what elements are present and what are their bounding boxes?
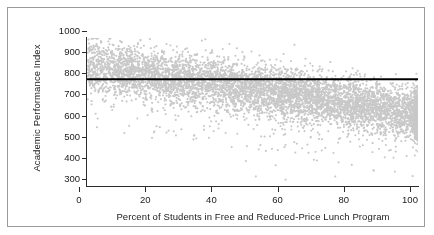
y-tick-label-text: 800 xyxy=(40,68,80,78)
y-tick-mark xyxy=(82,52,87,53)
x-tick-label-text: 20 xyxy=(125,194,165,205)
x-tick-label-text: 40 xyxy=(191,194,231,205)
x-tick-label: 100 xyxy=(390,194,430,205)
y-tick-mark xyxy=(82,179,87,180)
x-tick-label: 0 xyxy=(59,194,99,205)
x-axis-line xyxy=(86,186,419,187)
x-tick-mark xyxy=(211,187,212,192)
y-tick-label-text: 1000 xyxy=(40,26,80,36)
x-tick-label: 40 xyxy=(191,194,231,205)
y-tick-mark xyxy=(82,73,87,74)
x-tick-mark xyxy=(79,187,80,192)
figure-frame: 3004005006007008009001000 020406080100 A… xyxy=(7,7,425,227)
x-tick-label-text: 60 xyxy=(258,194,298,205)
y-tick-label-text: 500 xyxy=(40,132,80,142)
x-tick-label-text: 80 xyxy=(324,194,364,205)
plot-area xyxy=(87,38,418,186)
x-tick-label-text: 100 xyxy=(390,194,430,205)
x-tick-mark xyxy=(344,187,345,192)
y-tick-mark xyxy=(82,137,87,138)
y-tick-mark xyxy=(82,94,87,95)
x-tick-mark xyxy=(145,187,146,192)
scatter-plot-canvas xyxy=(87,38,418,186)
y-tick-mark xyxy=(82,158,87,159)
y-tick-label-text: 700 xyxy=(40,89,80,99)
x-tick-mark xyxy=(410,187,411,192)
x-tick-label: 20 xyxy=(125,194,165,205)
y-tick-label-text: 400 xyxy=(40,153,80,163)
y-tick-label-text: 300 xyxy=(40,174,80,184)
y-tick-mark xyxy=(82,31,87,32)
y-tick-label-text: 600 xyxy=(40,111,80,121)
y-tick-label-text: 900 xyxy=(40,47,80,57)
x-axis-title: Percent of Students in Free and Reduced-… xyxy=(87,211,419,222)
y-axis-line xyxy=(86,37,87,187)
y-tick-mark xyxy=(82,116,87,117)
x-tick-label-text: 0 xyxy=(59,194,99,205)
x-tick-mark xyxy=(278,187,279,192)
x-tick-label: 80 xyxy=(324,194,364,205)
y-axis-title: Academic Performance Index xyxy=(30,28,44,188)
x-tick-label: 60 xyxy=(258,194,298,205)
